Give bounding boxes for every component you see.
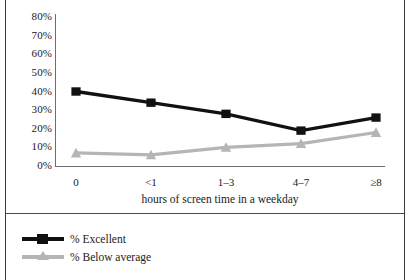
legend-item-below-average: % Below average — [22, 248, 151, 266]
square-marker-icon — [371, 113, 380, 121]
square-marker-icon — [221, 110, 230, 118]
legend-item-excellent: % Excellent — [22, 230, 151, 248]
data-series-layer — [0, 0, 412, 213]
legend-label-excellent: % Excellent — [70, 233, 126, 246]
legend-swatch-below-average — [22, 250, 64, 264]
legend-swatch-excellent — [22, 232, 64, 246]
plot-area: 0%10%20%30%40%50%60%70%80% 0<11–34–7≥8 h… — [0, 0, 412, 213]
chart-figure: 0%10%20%30%40%50%60%70%80% 0<11–34–7≥8 h… — [0, 0, 412, 280]
square-marker-icon — [146, 98, 155, 106]
square-marker-icon — [296, 126, 305, 134]
legend-divider — [6, 213, 404, 214]
square-marker-icon — [37, 234, 48, 244]
x-axis-title: hours of screen time in a weekday — [55, 193, 385, 206]
chart-legend: % Excellent % Below average — [22, 230, 151, 266]
legend-label-below-average: % Below average — [70, 251, 151, 264]
square-marker-icon — [71, 87, 80, 95]
triangle-marker-icon — [37, 251, 49, 260]
